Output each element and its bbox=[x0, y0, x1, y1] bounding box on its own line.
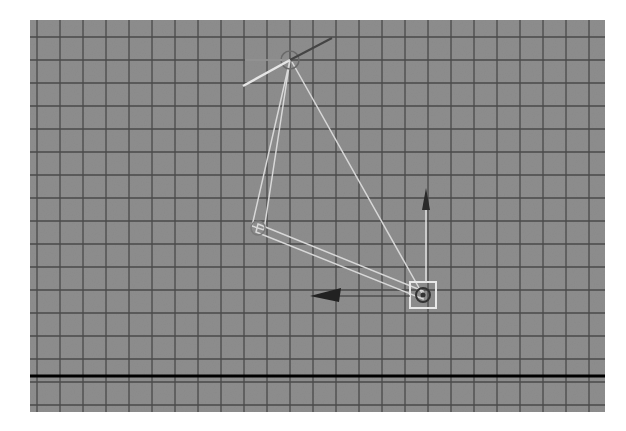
viewport-grain bbox=[30, 20, 605, 412]
viewport-canvas[interactable] bbox=[30, 20, 605, 412]
3d-viewport[interactable] bbox=[30, 20, 605, 412]
ik-handle-center-icon bbox=[421, 293, 426, 298]
